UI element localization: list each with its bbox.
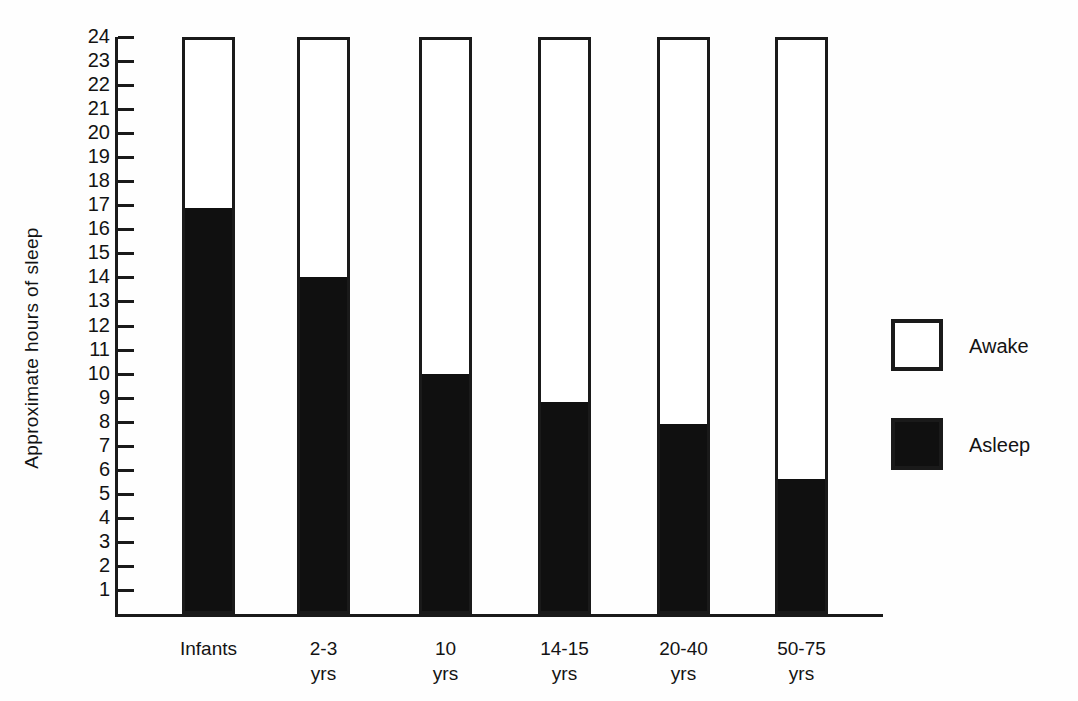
bar-segment-asleep xyxy=(300,277,347,611)
y-axis-tick-label: 22 xyxy=(58,74,110,94)
y-axis-tick xyxy=(118,36,134,39)
legend-label: Asleep xyxy=(969,435,1030,455)
x-axis-spine xyxy=(115,614,883,617)
y-axis-tick xyxy=(118,541,134,544)
y-axis-tick-label: 21 xyxy=(58,98,110,118)
y-axis-tick-label: 2 xyxy=(58,555,110,575)
y-axis-tick xyxy=(118,421,134,424)
bar-segment-asleep xyxy=(778,479,825,611)
y-axis-tick xyxy=(118,300,134,303)
y-axis-tick xyxy=(118,589,134,592)
y-axis-tick-label: 6 xyxy=(58,459,110,479)
y-axis-tick-label: 13 xyxy=(58,290,110,310)
bar-segment-asleep xyxy=(185,208,232,611)
y-axis-tick-label: 9 xyxy=(58,387,110,407)
y-axis-tick-label: 16 xyxy=(58,218,110,238)
y-axis-tick-label: 20 xyxy=(58,122,110,142)
y-axis-title: Approximate hours of sleep xyxy=(21,198,43,498)
y-axis-tick-label: 4 xyxy=(58,507,110,527)
bar-segment-asleep xyxy=(660,424,707,611)
y-axis-tick-label: 1 xyxy=(58,579,110,599)
legend-label: Awake xyxy=(969,336,1029,356)
y-axis-tick xyxy=(118,397,134,400)
y-axis-tick-label: 15 xyxy=(58,242,110,262)
y-axis-tick-label: 14 xyxy=(58,266,110,286)
bar-segment-asleep xyxy=(541,402,588,611)
y-axis-tick xyxy=(118,469,134,472)
hollow-square-icon xyxy=(891,319,943,371)
y-axis-tick xyxy=(118,228,134,231)
y-axis-tick xyxy=(118,276,134,279)
y-axis-tick xyxy=(118,445,134,448)
bar-segment-asleep xyxy=(422,374,469,611)
x-axis-tick-label: 50-75 yrs xyxy=(732,636,872,686)
y-axis-tick-label: 18 xyxy=(58,170,110,190)
y-axis-tick xyxy=(118,84,134,87)
x-axis-tick-label: 2-3 yrs xyxy=(254,636,394,686)
bar xyxy=(538,37,591,614)
y-axis-tick-label: 12 xyxy=(58,315,110,335)
y-axis-tick-label: 23 xyxy=(58,50,110,70)
y-axis-tick-label: 7 xyxy=(58,435,110,455)
y-axis-tick xyxy=(118,180,134,183)
y-axis-tick-label: 3 xyxy=(58,531,110,551)
bar xyxy=(657,37,710,614)
sleep-hours-bar-chart: Approximate hours of sleep 2423222120191… xyxy=(0,0,1078,701)
y-axis-tick-label: 17 xyxy=(58,194,110,214)
y-axis-tick xyxy=(118,156,134,159)
y-axis-tick xyxy=(118,517,134,520)
y-axis-tick-label: 19 xyxy=(58,146,110,166)
y-axis-tick xyxy=(118,204,134,207)
y-axis-tick-label: 24 xyxy=(58,26,110,46)
y-axis-tick xyxy=(118,493,134,496)
y-axis-tick xyxy=(118,349,134,352)
y-axis-tick xyxy=(118,132,134,135)
y-axis-tick xyxy=(118,565,134,568)
y-axis-tick-label: 8 xyxy=(58,411,110,431)
bar xyxy=(182,37,235,614)
y-axis-tick-label: 5 xyxy=(58,483,110,503)
y-axis-tick-label: 11 xyxy=(58,339,110,359)
bar xyxy=(297,37,350,614)
y-axis-tick-label: 10 xyxy=(58,363,110,383)
y-axis-tick xyxy=(118,60,134,63)
y-axis-tick xyxy=(118,108,134,111)
filled-square-icon xyxy=(891,418,943,470)
y-axis-tick xyxy=(118,325,134,328)
bar xyxy=(419,37,472,614)
y-axis-tick xyxy=(118,373,134,376)
y-axis-tick xyxy=(118,252,134,255)
bar xyxy=(775,37,828,614)
